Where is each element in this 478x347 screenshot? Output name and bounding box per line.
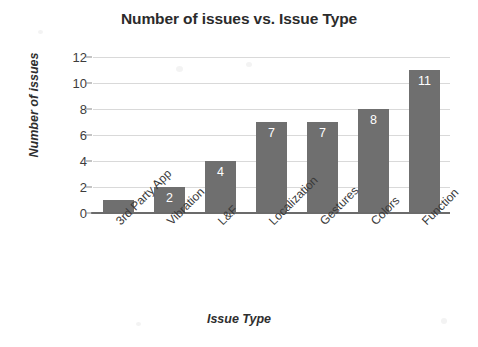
y-axis-tick-mark [86,57,92,58]
bar-value-label: 8 [358,113,390,127]
y-axis-tick-mark [86,109,92,110]
y-axis-tick-mark [86,161,92,162]
bar[interactable]: 11 [409,70,441,213]
chart-title: Number of issues vs. Issue Type [0,10,478,28]
bar-value-label: 7 [307,126,339,140]
y-axis-tick-mark [86,213,92,214]
gridline [93,109,450,110]
y-axis-tick-mark [86,187,92,188]
gridline [93,83,450,84]
bar[interactable]: 7 [256,122,288,213]
x-axis-tick-labels: 3rd Party AppVibrationL&FLocalizationGes… [93,214,450,304]
bar-value-label: 4 [205,165,237,179]
gridline [93,57,450,58]
bar-value-label: 7 [256,126,288,140]
y-axis-tick-label: 10 [73,76,87,91]
y-axis-tick-mark [86,135,92,136]
bar[interactable]: 7 [307,122,339,213]
x-axis-title: Issue Type [0,312,478,326]
y-axis-tick-mark [86,83,92,84]
y-axis-tick-label: 12 [73,50,87,65]
bar-chart-figure: Number of issues vs. Issue Type Number o… [0,0,478,347]
y-axis-tick-labels: 024681012 [55,57,87,213]
bar-value-label: 11 [409,74,441,88]
y-axis-title: Number of issues [27,45,41,165]
bar[interactable]: 8 [358,109,390,213]
scan-speckle [38,30,43,34]
